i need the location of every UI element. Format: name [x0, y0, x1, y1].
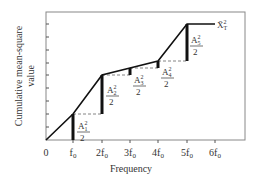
svg-text:2f0: 2f0: [96, 147, 108, 160]
svg-text:A12: A12: [78, 120, 88, 132]
svg-text:2: 2: [80, 133, 85, 143]
svg-text:A52: A52: [191, 34, 201, 46]
mean-square-total-label: X̄2T: [217, 19, 228, 31]
increment-bars: [73, 24, 187, 140]
cumulative-line: [46, 24, 215, 140]
cumulative-mean-square-diagram: A12 2 A22 2 A32 2 A42 2 A52 2 X̄2T 0 f0: [0, 0, 258, 184]
svg-text:0: 0: [44, 147, 49, 158]
svg-text:6f0: 6f0: [209, 147, 221, 160]
svg-text:A22: A22: [107, 84, 117, 96]
svg-text:4f0: 4f0: [152, 147, 164, 160]
svg-text:A32: A32: [134, 74, 144, 86]
svg-text:A42: A42: [162, 66, 172, 78]
svg-text:2: 2: [109, 97, 114, 107]
increment-label-5: A52 2: [190, 34, 203, 57]
svg-text:3f0: 3f0: [124, 147, 136, 160]
x-tick-labels: 0 f0 2f0 3f0 4f0 5f0 6f0: [44, 147, 222, 160]
svg-text:2: 2: [164, 79, 169, 89]
svg-text:Cumulative mean-square: Cumulative mean-square: [13, 25, 24, 126]
svg-text:f0: f0: [70, 147, 77, 160]
increment-label-2: A22 2: [106, 84, 119, 107]
svg-text:2: 2: [193, 47, 198, 57]
svg-text:2: 2: [136, 87, 141, 97]
plot-frame: [46, 12, 245, 140]
svg-text:5f0: 5f0: [181, 147, 193, 160]
svg-text:value: value: [25, 65, 36, 87]
increment-label-4: A42 2: [161, 66, 174, 89]
increment-label-3: A32 2: [133, 74, 146, 97]
x-axis-title: Frequency: [110, 163, 152, 174]
increment-labels: A12 2 A22 2 A32 2 A42 2 A52 2: [77, 34, 203, 143]
y-axis-title: Cumulative mean-square value: [13, 25, 36, 126]
